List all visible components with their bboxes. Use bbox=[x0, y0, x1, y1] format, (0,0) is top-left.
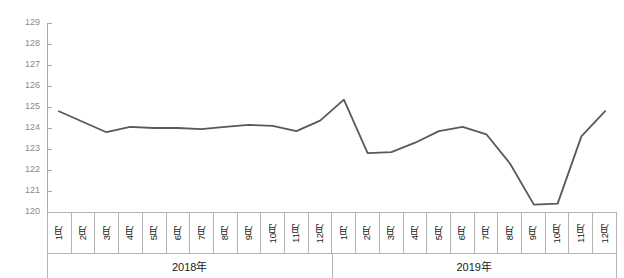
y-axis-tick-label: 128 bbox=[8, 39, 40, 48]
x-axis-tick-label-text: 12月 bbox=[313, 223, 327, 244]
x-axis-tick-label-text: 2月 bbox=[360, 225, 374, 240]
x-axis-tick-label: 2月 bbox=[356, 213, 380, 253]
x-axis-tick-label-text: 6月 bbox=[455, 225, 469, 240]
x-axis-tick-label: 5月 bbox=[143, 213, 167, 253]
x-axis-tick-label-text: 9月 bbox=[242, 225, 256, 240]
series-line-svg bbox=[47, 10, 618, 212]
x-axis-tick-label-text: 10月 bbox=[266, 223, 280, 244]
y-axis-tick-label: 129 bbox=[8, 18, 40, 27]
x-axis-tick-label: 7月 bbox=[190, 213, 214, 253]
x-axis-group-label: 2019年 bbox=[333, 253, 617, 278]
x-axis-tick-label: 3月 bbox=[380, 213, 404, 253]
x-axis-year-labels: 2018年2019年 bbox=[47, 253, 617, 278]
x-axis-tick-label: 10月 bbox=[261, 213, 285, 253]
x-axis-tick-label-text: 11月 bbox=[574, 223, 588, 243]
x-axis-tick-label: 12月 bbox=[593, 213, 616, 253]
y-axis-tick-label: 124 bbox=[8, 123, 40, 132]
x-axis-tick-label: 8月 bbox=[214, 213, 238, 253]
x-axis-month-labels: 1月2月3月4月5月6月7月8月9月10月11月12月1月2月3月4月5月6月7… bbox=[47, 212, 617, 254]
x-axis-tick-label-text: 9月 bbox=[526, 225, 540, 240]
x-axis-tick-label: 12月 bbox=[309, 213, 333, 253]
x-axis-tick-label-text: 3月 bbox=[384, 225, 398, 240]
x-axis-tick-label: 5月 bbox=[427, 213, 451, 253]
x-axis-tick-label: 6月 bbox=[167, 213, 191, 253]
x-axis-tick-label: 11月 bbox=[569, 213, 593, 253]
x-axis-tick-label: 3月 bbox=[95, 213, 119, 253]
x-axis-tick-label: 9月 bbox=[238, 213, 262, 253]
x-axis-tick-label: 7月 bbox=[475, 213, 499, 253]
x-axis-tick-label-text: 3月 bbox=[100, 225, 114, 240]
x-axis-tick-label-text: 5月 bbox=[147, 225, 161, 240]
x-axis-tick-label-text: 6月 bbox=[171, 225, 185, 240]
x-axis-tick-label-text: 8月 bbox=[503, 225, 517, 240]
x-axis-tick-label: 2月 bbox=[72, 213, 96, 253]
x-axis-tick-label-text: 12月 bbox=[598, 223, 612, 244]
x-axis-tick-label-text: 10月 bbox=[550, 223, 564, 244]
x-axis-tick-label: 8月 bbox=[498, 213, 522, 253]
y-axis-tick-label: 120 bbox=[8, 207, 40, 216]
x-axis-tick-label: 9月 bbox=[522, 213, 546, 253]
y-axis-tick-label: 127 bbox=[8, 60, 40, 69]
x-axis-tick-label: 11月 bbox=[285, 213, 309, 253]
x-axis-tick-label-text: 8月 bbox=[218, 225, 232, 240]
line-chart: 120121122123124125126127128129 1月2月3月4月5… bbox=[0, 0, 624, 278]
x-axis-tick-label: 4月 bbox=[404, 213, 428, 253]
x-axis-tick-label: 1月 bbox=[332, 213, 356, 253]
x-axis-tick-label-text: 7月 bbox=[195, 225, 209, 240]
y-axis-tick-label: 121 bbox=[8, 186, 40, 195]
x-axis-tick-label: 6月 bbox=[451, 213, 475, 253]
x-axis-tick-label-text: 7月 bbox=[479, 225, 493, 240]
x-axis-tick-label-text: 4月 bbox=[408, 225, 422, 240]
y-axis-tick-label: 123 bbox=[8, 144, 40, 153]
y-axis-tick-label: 126 bbox=[8, 81, 40, 90]
x-axis-tick-label-text: 11月 bbox=[289, 223, 303, 243]
y-axis-tick-label: 125 bbox=[8, 102, 40, 111]
x-axis-tick-label: 1月 bbox=[48, 213, 72, 253]
x-axis-tick-label-text: 2月 bbox=[76, 225, 90, 240]
series-line bbox=[59, 100, 605, 205]
x-axis-tick-label: 4月 bbox=[119, 213, 143, 253]
x-axis-tick-label-text: 1月 bbox=[52, 225, 66, 240]
plot-area bbox=[47, 10, 618, 212]
x-axis-group-label: 2018年 bbox=[48, 253, 333, 278]
y-axis-tick-label: 122 bbox=[8, 165, 40, 174]
x-axis-tick-label: 10月 bbox=[546, 213, 570, 253]
x-axis-tick-label-text: 4月 bbox=[123, 225, 137, 240]
x-axis-tick-label-text: 1月 bbox=[337, 225, 351, 240]
x-axis-tick-label-text: 5月 bbox=[432, 225, 446, 240]
